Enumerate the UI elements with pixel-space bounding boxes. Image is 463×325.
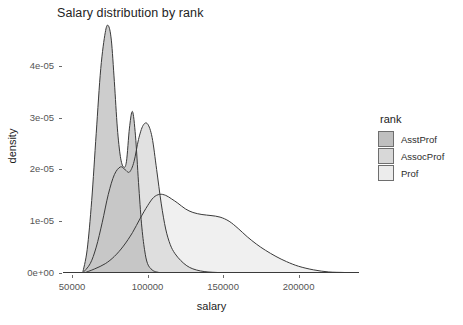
- x-tick-mark: [72, 275, 73, 278]
- y-tick-label: 0e+00: [6, 267, 54, 278]
- legend-swatch-icon: [378, 148, 394, 164]
- x-tick-label: 200000: [269, 281, 329, 292]
- x-tick-label: 50000: [42, 281, 102, 292]
- x-axis-title: salary: [0, 300, 423, 312]
- y-tick-mark: [59, 221, 62, 222]
- y-tick-mark: [59, 273, 62, 274]
- y-tick-mark: [59, 66, 62, 67]
- legend-swatch-icon: [378, 131, 394, 147]
- plot-panel: [63, 22, 359, 273]
- legend-item-label: Prof: [401, 168, 418, 179]
- x-tick-label: 100000: [118, 281, 178, 292]
- legend-items: AsstProfAssocProfProf: [378, 131, 444, 181]
- y-tick-label: 3e-05: [6, 112, 54, 123]
- legend-swatch-icon: [378, 165, 394, 181]
- legend-title: rank: [380, 113, 444, 125]
- x-tick-mark: [148, 275, 149, 278]
- density-chart: Salary distribution by rank density sala…: [0, 0, 463, 325]
- y-tick-mark: [59, 169, 62, 170]
- legend-item[interactable]: AsstProf: [378, 131, 444, 147]
- density-curves: [63, 22, 359, 273]
- y-tick-label: 1e-05: [6, 215, 54, 226]
- x-tick-mark: [223, 275, 224, 278]
- y-tick-mark: [59, 118, 62, 119]
- y-tick-label: 4e-05: [6, 60, 54, 71]
- legend-item-label: AssocProf: [401, 151, 444, 162]
- legend-item[interactable]: AssocProf: [378, 148, 444, 164]
- legend: rank AsstProfAssocProfProf: [378, 113, 444, 182]
- x-tick-label: 150000: [193, 281, 253, 292]
- y-tick-label: 2e-05: [6, 163, 54, 174]
- x-tick-mark: [299, 275, 300, 278]
- legend-item[interactable]: Prof: [378, 165, 444, 181]
- legend-item-label: AsstProf: [401, 134, 437, 145]
- chart-title: Salary distribution by rank: [57, 6, 204, 20]
